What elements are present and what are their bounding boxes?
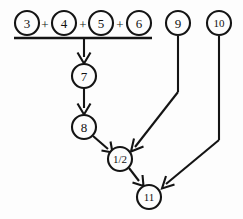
node-10[interactable]: 10 xyxy=(207,11,231,35)
node-4[interactable]: 4 xyxy=(52,11,76,35)
node-6[interactable]: 6 xyxy=(127,11,151,35)
edge-half-to-11 xyxy=(129,168,144,186)
node-one-half[interactable]: 1/2 xyxy=(108,147,132,171)
node-11[interactable]: 11 xyxy=(137,185,161,209)
plus-operator-1: + xyxy=(41,17,48,32)
edge-7-to-8 xyxy=(78,88,91,115)
edge-8-to-half xyxy=(93,136,113,153)
node-9[interactable]: 9 xyxy=(166,11,190,35)
node-5[interactable]: 5 xyxy=(89,11,113,35)
node-3[interactable]: 3 xyxy=(15,11,39,35)
node-8[interactable]: 8 xyxy=(72,115,96,139)
edge-9-to-half xyxy=(131,36,178,152)
edge-sum-to-7 xyxy=(78,38,91,64)
edge-10-to-11 xyxy=(162,36,219,189)
plus-operator-2: + xyxy=(79,17,86,32)
dependency-flow-diagram: + + + 3 4 5 6 9 10 7 xyxy=(0,0,243,219)
node-7[interactable]: 7 xyxy=(72,64,96,88)
plus-operator-3: + xyxy=(116,17,123,32)
diagram-canvas: + + + 3 4 5 6 9 10 7 xyxy=(0,0,243,219)
